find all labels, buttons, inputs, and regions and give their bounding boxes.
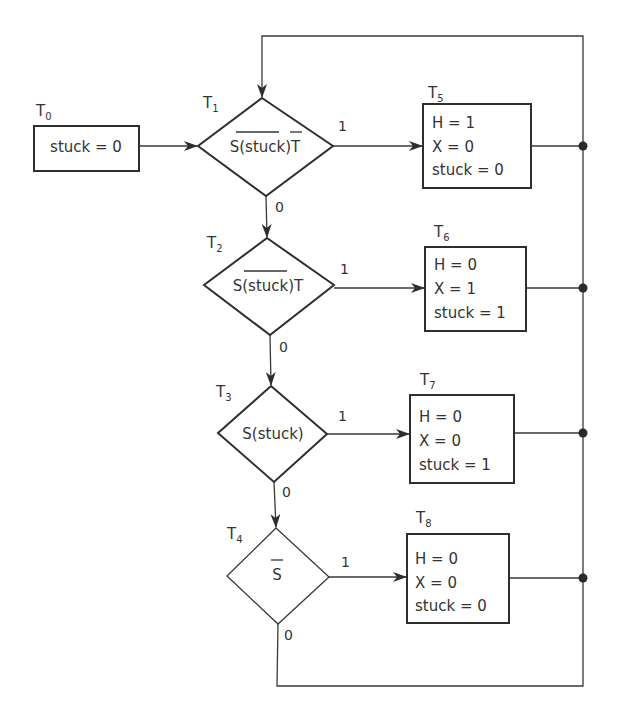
node-t8-line-2: X = 0 bbox=[415, 574, 457, 592]
node-t8-label: T8 bbox=[415, 509, 432, 529]
node-t4-label: T4 bbox=[226, 525, 243, 545]
node-t2: T2 S(stuck)T 1 0 bbox=[204, 234, 349, 355]
node-t7: T7 H = 0 X = 0 stuck = 1 bbox=[410, 371, 514, 483]
node-t0-action: stuck = 0 bbox=[50, 138, 122, 156]
node-t2-label: T2 bbox=[206, 234, 223, 254]
node-t1-yes-label: 1 bbox=[338, 118, 347, 134]
node-t6: T6 H = 0 X = 1 stuck = 1 bbox=[425, 223, 526, 331]
node-t5-line-2: X = 0 bbox=[432, 138, 474, 156]
arrow-t3-to-t4 bbox=[274, 482, 276, 527]
junction-dot bbox=[579, 429, 588, 438]
node-t1-condition: S(stuck)T bbox=[230, 138, 301, 156]
node-t6-line-3: stuck = 1 bbox=[434, 304, 506, 322]
flowchart-canvas: T0 stuck = 0 T1 S(stuck)T 1 0 T2 S(stuck… bbox=[0, 0, 618, 723]
node-t7-label: T7 bbox=[419, 371, 436, 391]
node-t5-line-1: H = 1 bbox=[432, 114, 475, 132]
node-t1: T1 S(stuck)T 1 0 bbox=[198, 94, 347, 215]
node-t4-condition: S bbox=[272, 566, 282, 584]
arrow-t2-to-t3 bbox=[270, 335, 271, 385]
node-t3: T3 S(stuck) 1 0 bbox=[215, 383, 347, 500]
node-t1-label: T1 bbox=[202, 94, 219, 114]
node-t5: T5 H = 1 X = 0 stuck = 0 bbox=[423, 84, 531, 188]
junction-dot bbox=[579, 284, 588, 293]
node-t2-condition: S(stuck)T bbox=[233, 277, 304, 295]
node-t3-no-label: 0 bbox=[282, 484, 291, 500]
node-t0: T0 stuck = 0 bbox=[34, 102, 139, 171]
junction-dot bbox=[579, 142, 588, 151]
node-t5-line-3: stuck = 0 bbox=[432, 161, 504, 179]
node-t3-yes-label: 1 bbox=[338, 408, 347, 424]
arrow-t1-to-t2 bbox=[266, 196, 267, 237]
node-t6-line-2: X = 1 bbox=[434, 280, 476, 298]
node-t5-label: T5 bbox=[427, 84, 444, 104]
node-t4-yes-label: 1 bbox=[341, 554, 350, 570]
junction-dot bbox=[579, 574, 588, 583]
node-t2-no-label: 0 bbox=[279, 339, 288, 355]
node-t8-line-3: stuck = 0 bbox=[415, 597, 487, 615]
node-t7-line-1: H = 0 bbox=[419, 408, 462, 426]
node-t3-label: T3 bbox=[215, 383, 232, 403]
node-t6-label: T6 bbox=[433, 223, 450, 243]
node-t7-line-3: stuck = 1 bbox=[419, 456, 491, 474]
node-t1-no-label: 0 bbox=[275, 199, 284, 215]
node-t2-yes-label: 1 bbox=[340, 261, 349, 277]
node-t7-line-2: X = 0 bbox=[419, 432, 461, 450]
node-t3-condition: S(stuck) bbox=[242, 425, 303, 443]
node-t4-no-label: 0 bbox=[284, 627, 293, 643]
node-t6-line-1: H = 0 bbox=[434, 256, 477, 274]
node-t0-label: T0 bbox=[35, 102, 52, 122]
node-t8-line-1: H = 0 bbox=[415, 550, 458, 568]
node-t8: T8 H = 0 X = 0 stuck = 0 bbox=[407, 509, 509, 623]
node-t4: T4 S 1 0 bbox=[226, 525, 350, 643]
